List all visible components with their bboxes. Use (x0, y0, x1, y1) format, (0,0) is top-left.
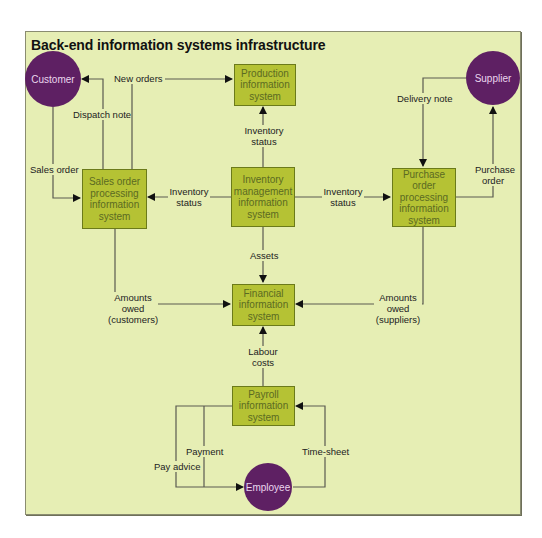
flow-label-pay-advice: Pay advice (154, 461, 200, 472)
inventory-system-box[interactable]: Inventory management information system (231, 167, 295, 227)
flow-label-labour-costs: Labour costs (246, 346, 280, 368)
flow-label-inventory-status-purchase: Inventory status (322, 186, 364, 208)
financial-system-box[interactable]: Financial information system (232, 284, 295, 326)
supplier-entity[interactable]: Supplier (466, 51, 520, 105)
purchase-order-system-label: Purchase order processing information sy… (397, 169, 451, 227)
flow-label-amounts-owed-suppliers: Amounts owed (suppliers) (374, 292, 422, 325)
supplier-label: Supplier (475, 73, 512, 84)
flow-label-sales-order: Sales order (30, 164, 79, 175)
flow-label-amounts-owed-customers: Amounts owed (customers) (108, 292, 158, 325)
flow-label-time-sheet: Time-sheet (302, 446, 349, 457)
financial-system-label: Financial information system (236, 288, 291, 323)
sales-order-system-box[interactable]: Sales order processing information syste… (82, 169, 147, 229)
employee-label: Employee (246, 482, 290, 493)
payroll-system-box[interactable]: Payroll information system (232, 386, 295, 426)
production-system-box[interactable]: Production information system (234, 64, 296, 106)
flow-label-inventory-status-production: Inventory status (244, 125, 284, 147)
purchase-order-system-box[interactable]: Purchase order processing information sy… (392, 168, 456, 227)
flow-label-inventory-status-sales: Inventory status (168, 186, 210, 208)
flow-label-new-orders: New orders (112, 73, 165, 84)
payroll-system-label: Payroll information system (236, 389, 291, 424)
inventory-system-label: Inventory management information system (234, 174, 292, 220)
flow-label-dispatch-note: Dispatch note (73, 109, 131, 120)
sales-order-system-label: Sales order processing information syste… (87, 176, 142, 222)
flow-label-payment: Payment (186, 446, 224, 457)
customer-label: Customer (31, 74, 74, 85)
customer-entity[interactable]: Customer (25, 51, 81, 107)
flow-label-delivery-note: Delivery note (397, 93, 452, 104)
flow-label-assets: Assets (250, 250, 279, 261)
flow-label-purchase-order: Purchase order (475, 164, 511, 186)
production-system-label: Production information system (238, 68, 292, 103)
employee-entity[interactable]: Employee (244, 463, 292, 511)
